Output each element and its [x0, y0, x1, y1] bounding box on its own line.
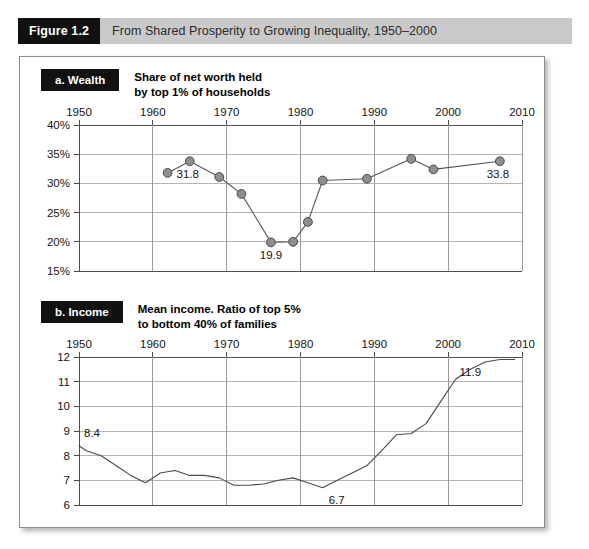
svg-text:20%: 20% — [47, 236, 70, 248]
svg-text:1960: 1960 — [140, 107, 166, 118]
svg-text:12: 12 — [57, 351, 70, 363]
svg-text:40%: 40% — [47, 119, 70, 131]
svg-text:2010: 2010 — [509, 339, 535, 350]
svg-text:1970: 1970 — [214, 107, 240, 118]
svg-text:8.4: 8.4 — [84, 427, 101, 439]
figure-caption-bar: Figure 1.2 From Shared Prosperity to Gro… — [18, 18, 572, 44]
figure-panel: a. Wealth Share of net worth held by top… — [19, 56, 545, 528]
svg-text:30%: 30% — [47, 177, 70, 189]
svg-text:8: 8 — [64, 450, 70, 462]
svg-text:2000: 2000 — [435, 107, 461, 118]
svg-text:9: 9 — [64, 425, 70, 437]
income-plot-area: 678910111219501960197019801990200020108.… — [20, 339, 544, 519]
income-chart-svg: 678910111219501960197019801990200020108.… — [20, 339, 544, 519]
wealth-chart-svg: 15%20%25%30%35%40%1950196019701980199020… — [20, 107, 544, 283]
svg-text:11.9: 11.9 — [460, 366, 482, 378]
svg-text:1970: 1970 — [214, 339, 240, 350]
chart-block-income: b. Income Mean income. Ratio of top 5% t… — [20, 295, 544, 521]
income-title: Mean income. Ratio of top 5% to bottom 4… — [138, 301, 301, 332]
svg-text:7: 7 — [64, 474, 70, 486]
svg-text:11: 11 — [58, 376, 70, 388]
wealth-plot-area: 15%20%25%30%35%40%1950196019701980199020… — [20, 107, 544, 283]
svg-text:1990: 1990 — [362, 107, 388, 118]
chart-block-wealth: a. Wealth Share of net worth held by top… — [20, 63, 544, 285]
svg-text:2010: 2010 — [509, 107, 535, 118]
svg-text:6.7: 6.7 — [329, 494, 345, 506]
svg-text:35%: 35% — [47, 148, 70, 160]
svg-text:2000: 2000 — [435, 339, 461, 350]
svg-text:25%: 25% — [47, 207, 70, 219]
wealth-heading: a. Wealth Share of net worth held by top… — [41, 69, 270, 100]
wealth-tag: a. Wealth — [41, 69, 119, 91]
svg-text:1990: 1990 — [362, 339, 388, 350]
svg-text:31.8: 31.8 — [177, 168, 199, 180]
svg-text:6: 6 — [64, 499, 70, 511]
svg-text:1980: 1980 — [288, 339, 314, 350]
svg-text:1950: 1950 — [66, 339, 92, 350]
income-tag: b. Income — [41, 301, 123, 323]
svg-text:10: 10 — [57, 400, 70, 412]
svg-text:1960: 1960 — [140, 339, 166, 350]
svg-text:1980: 1980 — [288, 107, 314, 118]
figure-number: Figure 1.2 — [18, 18, 100, 44]
wealth-title: Share of net worth held by top 1% of hou… — [134, 69, 270, 100]
svg-text:19.9: 19.9 — [260, 249, 282, 261]
svg-text:15%: 15% — [47, 265, 70, 277]
income-heading: b. Income Mean income. Ratio of top 5% t… — [41, 301, 301, 332]
figure-caption-text: From Shared Prosperity to Growing Inequa… — [100, 18, 437, 44]
svg-text:1950: 1950 — [66, 107, 92, 118]
svg-text:33.8: 33.8 — [487, 168, 509, 180]
